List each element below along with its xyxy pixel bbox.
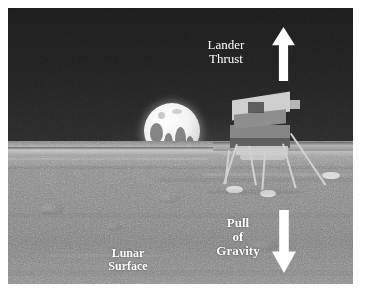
- lm-window: [248, 102, 264, 113]
- photograph: Lander Thrust Pull of Gravity Lunar Surf…: [8, 8, 353, 284]
- lm-leg-strut: [290, 133, 326, 186]
- lander-thrust-label: Lander Thrust: [184, 38, 268, 66]
- terrain-ridge: [8, 213, 353, 218]
- lunar-module: [204, 94, 353, 204]
- lm-leg-strut: [282, 143, 297, 188]
- horizon-line-left: [8, 147, 221, 156]
- crater: [38, 204, 64, 215]
- lm-antenna-dish: [288, 100, 300, 109]
- lunar-lander-force-diagram: Lander Thrust Pull of Gravity Lunar Surf…: [0, 0, 367, 298]
- lm-engine-glare: [240, 154, 286, 160]
- terrain-ridge: [8, 270, 353, 276]
- lunar-surface-label: Lunar Surface: [82, 247, 174, 273]
- crater: [158, 194, 180, 203]
- lm-footpad: [322, 172, 340, 179]
- terrain-highlight: [8, 158, 208, 160]
- pull-of-gravity-label: Pull of Gravity: [204, 216, 272, 258]
- lander-shadow: [208, 189, 304, 195]
- crater: [104, 223, 122, 231]
